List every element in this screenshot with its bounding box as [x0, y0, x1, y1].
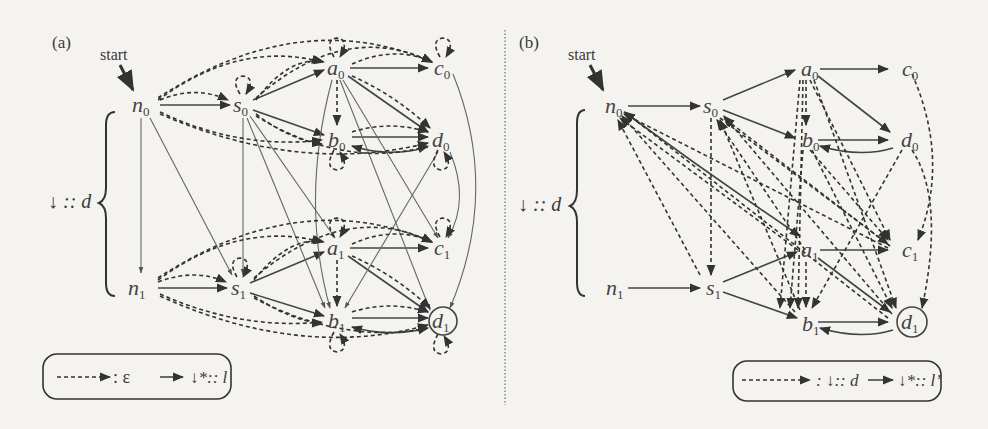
node-s1: s1: [706, 275, 721, 302]
legend-dashed-meaning: : ε: [113, 367, 131, 387]
node-c0: c0: [902, 56, 918, 83]
node-b1: b1: [802, 311, 820, 338]
node-b1: b1: [328, 308, 346, 335]
node-a0: a0: [327, 55, 345, 82]
node-n0: n0: [605, 93, 623, 120]
node-b0: b0: [802, 127, 820, 154]
brace-label: ↓ :: d: [48, 190, 92, 212]
node-n1: n1: [606, 275, 624, 302]
node-a1: a1: [801, 237, 819, 264]
node-d0: d0: [901, 127, 919, 154]
brace: [570, 110, 585, 296]
start-arrow: [120, 65, 133, 90]
node-a1: a1: [327, 235, 345, 262]
node-c0: c0: [434, 55, 450, 82]
start-label: start: [568, 46, 596, 63]
node-s0: s0: [233, 92, 248, 119]
legend-solid-meaning: ↓*:: l’: [898, 371, 941, 390]
node-s1: s1: [231, 275, 246, 302]
legend-solid-meaning: ↓*:: l: [190, 368, 228, 387]
brace-label: ↓ :: d: [518, 193, 562, 215]
node-c1: c1: [902, 237, 918, 264]
node-s0: s0: [703, 93, 718, 120]
panel-b: (b) start ↓ :: d: [518, 33, 941, 401]
node-d0: d0: [432, 127, 450, 154]
node-a0: a0: [801, 56, 819, 83]
panel-a: (a) start ↓ :: d: [43, 33, 476, 399]
node-c1: c1: [434, 235, 450, 262]
start-arrow: [590, 65, 603, 90]
automata-figure: (a) start ↓ :: d: [0, 0, 988, 429]
panel-a-label: (a): [52, 33, 71, 52]
start-label: start: [100, 46, 128, 63]
panel-b-label: (b): [519, 33, 539, 52]
legend-dashed-meaning: : ↓:: d: [816, 371, 859, 390]
node-b0: b0: [328, 127, 346, 154]
brace: [99, 112, 115, 296]
node-n1: n1: [128, 275, 146, 302]
